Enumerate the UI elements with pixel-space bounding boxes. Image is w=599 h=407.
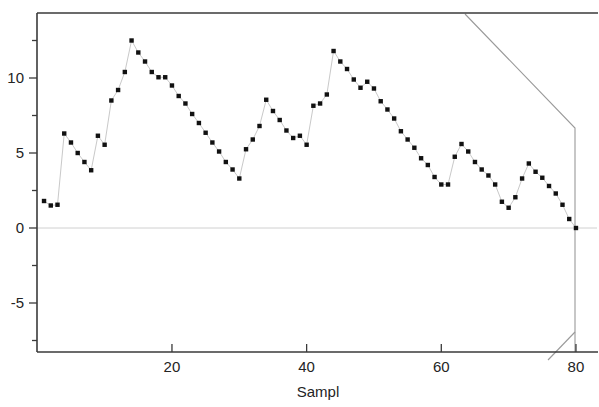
data-point[interactable]: [109, 98, 113, 102]
data-point[interactable]: [459, 142, 463, 146]
data-point[interactable]: [203, 131, 207, 135]
data-point[interactable]: [217, 149, 221, 153]
data-point[interactable]: [527, 161, 531, 165]
data-point[interactable]: [540, 176, 544, 180]
data-point[interactable]: [304, 143, 308, 147]
data-point[interactable]: [405, 137, 409, 141]
data-point[interactable]: [55, 203, 59, 207]
data-point[interactable]: [278, 118, 282, 122]
data-point[interactable]: [547, 184, 551, 188]
data-point[interactable]: [513, 195, 517, 199]
data-point[interactable]: [76, 151, 80, 155]
x-axis-title: Sampl: [297, 383, 340, 400]
data-point[interactable]: [284, 128, 288, 132]
data-point[interactable]: [183, 101, 187, 105]
data-point[interactable]: [318, 101, 322, 105]
data-point[interactable]: [170, 83, 174, 87]
data-point[interactable]: [358, 86, 362, 90]
y-tick-label: -5: [11, 294, 24, 311]
data-point[interactable]: [466, 149, 470, 153]
data-point[interactable]: [520, 176, 524, 180]
data-point[interactable]: [331, 49, 335, 53]
data-point[interactable]: [432, 175, 436, 179]
data-point[interactable]: [237, 176, 241, 180]
x-tick-label: 80: [568, 358, 585, 375]
data-point[interactable]: [156, 75, 160, 79]
data-point[interactable]: [473, 160, 477, 164]
data-point[interactable]: [554, 191, 558, 195]
data-point[interactable]: [560, 203, 564, 207]
data-point[interactable]: [116, 88, 120, 92]
data-point[interactable]: [298, 134, 302, 138]
data-point[interactable]: [493, 182, 497, 186]
data-point[interactable]: [567, 217, 571, 221]
data-point[interactable]: [257, 124, 261, 128]
data-point[interactable]: [533, 170, 537, 174]
data-point[interactable]: [412, 146, 416, 150]
data-point[interactable]: [325, 92, 329, 96]
x-tick-label: 40: [298, 358, 315, 375]
data-point[interactable]: [574, 226, 578, 230]
data-point[interactable]: [49, 203, 53, 207]
data-point[interactable]: [352, 77, 356, 81]
plot-background: [0, 0, 599, 407]
y-tick-label: 10: [7, 69, 24, 86]
data-point[interactable]: [143, 59, 147, 63]
data-point[interactable]: [190, 112, 194, 116]
data-point[interactable]: [291, 136, 295, 140]
data-point[interactable]: [224, 160, 228, 164]
data-point[interactable]: [210, 140, 214, 144]
chart-figure: -50510 20406080 Sampl: [0, 0, 599, 407]
x-tick-label: 60: [433, 358, 450, 375]
data-point[interactable]: [69, 140, 73, 144]
scatter-plot-svg: -50510 20406080 Sampl: [0, 0, 599, 407]
data-point[interactable]: [426, 163, 430, 167]
data-point[interactable]: [251, 137, 255, 141]
data-point[interactable]: [271, 109, 275, 113]
data-point[interactable]: [439, 182, 443, 186]
data-point[interactable]: [392, 116, 396, 120]
data-point[interactable]: [338, 59, 342, 63]
data-point[interactable]: [136, 50, 140, 54]
data-point[interactable]: [197, 121, 201, 125]
data-point[interactable]: [500, 200, 504, 204]
data-point[interactable]: [372, 86, 376, 90]
data-point[interactable]: [102, 143, 106, 147]
data-point[interactable]: [419, 156, 423, 160]
data-point[interactable]: [365, 80, 369, 84]
data-point[interactable]: [89, 168, 93, 172]
data-point[interactable]: [311, 104, 315, 108]
data-point[interactable]: [123, 70, 127, 74]
data-point[interactable]: [62, 131, 66, 135]
data-point[interactable]: [453, 155, 457, 159]
data-point[interactable]: [506, 206, 510, 210]
data-point[interactable]: [42, 199, 46, 203]
data-point[interactable]: [480, 167, 484, 171]
y-tick-label: 5: [16, 144, 24, 161]
data-point[interactable]: [446, 182, 450, 186]
data-point[interactable]: [96, 134, 100, 138]
data-point[interactable]: [345, 67, 349, 71]
data-point[interactable]: [82, 160, 86, 164]
y-tick-label: 0: [16, 219, 24, 236]
data-point[interactable]: [129, 38, 133, 42]
data-point[interactable]: [230, 167, 234, 171]
data-point[interactable]: [385, 107, 389, 111]
data-point[interactable]: [163, 75, 167, 79]
data-point[interactable]: [244, 147, 248, 151]
data-point[interactable]: [177, 94, 181, 98]
data-point[interactable]: [486, 173, 490, 177]
data-point[interactable]: [264, 98, 268, 102]
x-tick-label: 20: [164, 358, 181, 375]
data-point[interactable]: [150, 70, 154, 74]
data-point[interactable]: [399, 129, 403, 133]
data-point[interactable]: [379, 99, 383, 103]
